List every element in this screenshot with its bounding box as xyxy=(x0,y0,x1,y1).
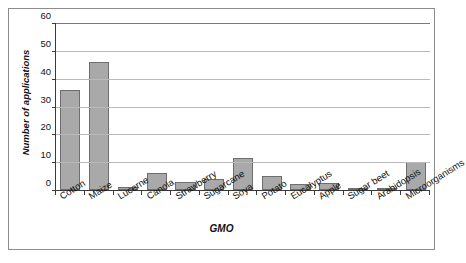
x-axis-title: GMO xyxy=(9,223,434,234)
y-tick-label: 20 xyxy=(23,123,51,133)
y-tick-label: 60 xyxy=(23,11,51,21)
y-tick-label: 50 xyxy=(23,39,51,49)
y-axis-tick-labels: 0102030405060 xyxy=(23,16,51,183)
y-tick-label: 30 xyxy=(23,95,51,105)
bar-chart: Number of applications 0102030405060 Cot… xyxy=(9,9,434,249)
y-tick-mark xyxy=(52,107,56,108)
gridline xyxy=(56,23,430,24)
gridline xyxy=(56,162,430,163)
gridline xyxy=(56,134,430,135)
y-tick-label: 0 xyxy=(23,178,51,188)
gridline xyxy=(56,79,430,80)
y-tick-mark xyxy=(52,134,56,135)
gridline xyxy=(56,107,430,108)
y-tick-label: 10 xyxy=(23,150,51,160)
bar-cotton xyxy=(60,90,80,190)
y-tick-mark xyxy=(52,51,56,52)
y-tick-mark xyxy=(52,162,56,163)
x-axis-tick-labels: CottonMaizeLucerneCanolaStrawberrySugarc… xyxy=(55,193,429,251)
y-tick-mark xyxy=(52,23,56,24)
gridline xyxy=(56,51,430,52)
y-tick-label: 40 xyxy=(23,67,51,77)
figure-frame: Number of applications 0102030405060 Cot… xyxy=(8,8,435,250)
x-tick-mark xyxy=(429,191,430,195)
y-tick-mark xyxy=(52,79,56,80)
bar-maize xyxy=(89,62,109,190)
plot-area xyxy=(55,23,430,191)
